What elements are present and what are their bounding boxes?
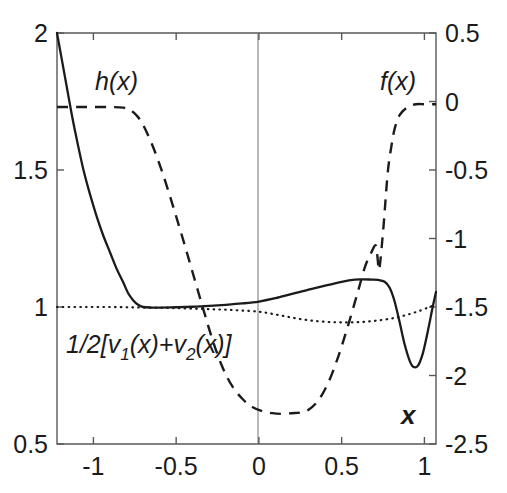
label-h-of-x: h(x) bbox=[95, 67, 138, 95]
left-tick-label: 0.5 bbox=[13, 430, 48, 458]
avg-label-sub2: 2 bbox=[185, 345, 196, 364]
plot-canvas: -1-0.500.51 21.510.5 0.50-0.5-1-1.5-2-2.… bbox=[0, 0, 507, 493]
x-tick-label: 0.5 bbox=[324, 452, 359, 480]
x-tick-label: -1 bbox=[82, 452, 104, 480]
avg-label-sub1: 1 bbox=[120, 345, 129, 364]
right-tick-label: -1.5 bbox=[445, 293, 488, 321]
x-tick-label: -0.5 bbox=[155, 452, 198, 480]
figure-container: -1-0.500.51 21.510.5 0.50-0.5-1-1.5-2-2.… bbox=[0, 0, 507, 493]
x-tick-label: 0 bbox=[252, 452, 266, 480]
right-tick-label: 0.5 bbox=[445, 19, 480, 47]
right-axis-ticks bbox=[429, 33, 436, 444]
label-x-axis-name: x bbox=[399, 400, 417, 430]
right-axis-tick-labels: 0.50-0.5-1-1.5-2-2.5 bbox=[445, 19, 488, 458]
label-average-potential: 1/2[v1(x)+v2(x)] bbox=[66, 330, 233, 364]
left-axis-ticks bbox=[57, 33, 64, 444]
x-axis-ticks bbox=[93, 33, 424, 444]
left-tick-label: 1 bbox=[34, 293, 48, 321]
left-axis-tick-labels: 21.510.5 bbox=[13, 19, 48, 458]
x-tick-label: 1 bbox=[417, 452, 431, 480]
label-f-of-x: f(x) bbox=[380, 67, 416, 95]
avg-label-suffix: (x)] bbox=[195, 330, 232, 358]
right-tick-label: -2.5 bbox=[445, 430, 488, 458]
x-axis-tick-labels: -1-0.500.51 bbox=[82, 452, 431, 480]
right-tick-label: -2 bbox=[445, 362, 467, 390]
right-tick-label: -1 bbox=[445, 225, 467, 253]
left-tick-label: 2 bbox=[34, 19, 48, 47]
curve-average-potential bbox=[57, 305, 436, 323]
avg-label-mid: (x)+v bbox=[130, 330, 188, 358]
right-tick-label: -0.5 bbox=[445, 156, 488, 184]
avg-label-prefix: 1/2[v bbox=[66, 330, 122, 358]
left-tick-label: 1.5 bbox=[13, 156, 48, 184]
svg-text:1/2[v1(x)+v2(x)]: 1/2[v1(x)+v2(x)] bbox=[66, 330, 233, 364]
right-tick-label: 0 bbox=[445, 88, 459, 116]
